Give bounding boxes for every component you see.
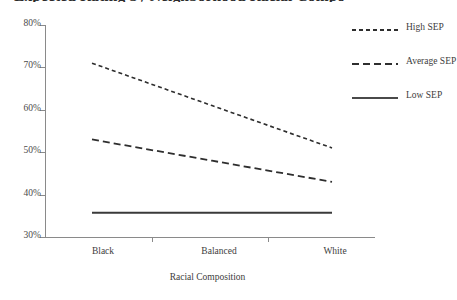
plot-area: 80%70%60%50%40%30% BlackBalancedWhite bbox=[45, 25, 375, 237]
legend-item-low-sep: Low SEP bbox=[352, 90, 457, 124]
chart-legend: High SEP Average SEP Low SEP bbox=[352, 22, 457, 124]
series-line-average-sep bbox=[92, 139, 332, 181]
legend-swatch-dashed-medium-icon bbox=[352, 63, 398, 65]
series-plot bbox=[45, 25, 375, 237]
x-axis-tick bbox=[152, 237, 153, 242]
x-axis-category-label: Black bbox=[92, 246, 114, 256]
x-axis-category-label: White bbox=[323, 246, 346, 256]
x-axis-title: Racial Composition bbox=[170, 272, 246, 282]
legend-label: Low SEP bbox=[406, 90, 442, 100]
chart-title: Expected Rating by Neighborhood Racial C… bbox=[14, 0, 344, 2]
x-axis-title-wrap: Racial Composition bbox=[0, 272, 457, 282]
y-axis-tick-label: 60% bbox=[24, 103, 41, 113]
legend-label: Average SEP bbox=[406, 56, 456, 66]
legend-swatch-solid-icon bbox=[352, 97, 398, 99]
series-line-high-sep bbox=[92, 63, 332, 148]
y-axis-tick-label: 40% bbox=[24, 188, 41, 198]
legend-item-high-sep: High SEP bbox=[352, 22, 457, 56]
x-axis-tick bbox=[268, 237, 269, 242]
y-axis-tick-label: 30% bbox=[24, 230, 41, 240]
legend-item-average-sep: Average SEP bbox=[352, 56, 457, 90]
y-axis-tick-label: 70% bbox=[24, 60, 41, 70]
y-axis-tick-label: 80% bbox=[24, 18, 41, 28]
x-axis-category-label: Balanced bbox=[201, 246, 236, 256]
legend-swatch-dashed-short-icon bbox=[352, 29, 398, 31]
x-axis-spine bbox=[45, 237, 375, 238]
legend-label: High SEP bbox=[406, 22, 444, 32]
y-axis-tick-label: 50% bbox=[24, 145, 41, 155]
